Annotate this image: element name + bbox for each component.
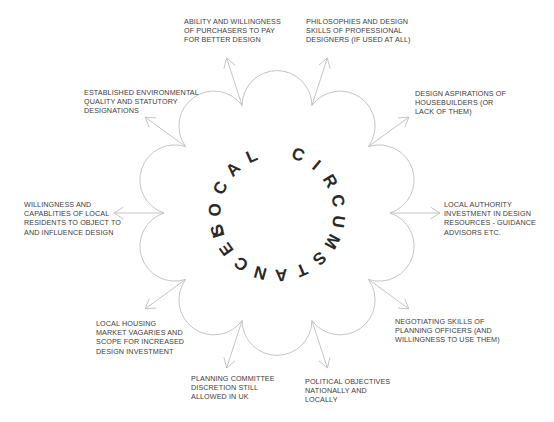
scallop-arc <box>140 145 186 213</box>
factor-label-line: AND INFLUENCE DESIGN <box>24 228 121 237</box>
factor-label-line: WILLINGNESS AND <box>24 200 121 209</box>
factor-label-line: PLANNING COMMITTEE <box>191 374 275 383</box>
center-title-letter: C <box>209 178 231 197</box>
arrow-icon <box>312 58 330 106</box>
scallop-arc <box>368 145 414 213</box>
factor-label-line: LOCAL AUTHORITY <box>444 200 536 209</box>
factor-label-committee: PLANNING COMMITTEEDISCRETION STILLALLOWE… <box>191 374 275 402</box>
center-title-letter: C <box>231 252 252 275</box>
factor-label-line: NATIONALLY AND <box>305 386 390 395</box>
factor-label-line: DESIGN ASPIRATIONS OF <box>415 89 506 98</box>
arrow-icon <box>390 207 440 219</box>
arrow-icon <box>312 320 330 368</box>
center-title-letter: R <box>319 171 342 191</box>
center-title-letter: M <box>320 231 343 252</box>
center-title-letter: O <box>205 203 225 217</box>
scallop-arc <box>140 213 186 281</box>
factor-label-line: POLITICAL OBJECTIVES <box>305 377 390 386</box>
factor-label-line: DESIGN INVESTMENT <box>96 347 184 356</box>
factor-label-line: SCOPE FOR INCREASED <box>96 337 184 346</box>
factor-label-line: DISCRETION STILL <box>191 383 275 392</box>
factor-label-line: LOCAL HOUSING <box>96 319 184 328</box>
factor-label-line: LACK OF THEM) <box>415 107 506 116</box>
center-title-letter: N <box>252 262 269 284</box>
factor-label-local-authority: LOCAL AUTHORITYINVESTMENT IN DESIGNRESOU… <box>444 200 536 237</box>
factor-label-line: RESOURCES - GUIDANCE <box>444 218 536 227</box>
scallop-arc <box>242 321 312 356</box>
scallop-arc <box>179 279 242 334</box>
factor-label-designers: PHILOSOPHIES AND DESIGNSKILLS OF PROFESS… <box>306 17 411 45</box>
factor-label-line: CAPABLITIES OF LOCAL <box>24 209 121 218</box>
factor-label-line: MARKET VAGARIES AND <box>96 328 184 337</box>
factor-label-line: WILLINGNESS TO USE THEM) <box>395 335 500 344</box>
scallop-arc <box>312 91 375 146</box>
factor-label-line: QUALITY AND STATUTORY <box>84 97 199 106</box>
factor-label-housebuilders: DESIGN ASPIRATIONS OFHOUSEBUILDERS (ORLA… <box>415 89 506 117</box>
factor-label-political: POLITICAL OBJECTIVESNATIONALLY ANDLOCALL… <box>305 377 390 405</box>
factor-label-line: ESTABLISHED ENVIRONMENTAL <box>84 88 199 97</box>
center-title-letter: T <box>293 259 311 281</box>
factor-label-purchasers: ABILITY AND WILLINGNESSOF PURCHASERS TO … <box>184 17 281 45</box>
factor-label-line: PHILOSOPHIES AND DESIGN <box>306 17 411 26</box>
factor-label-line: INVESTMENT IN DESIGN <box>444 209 536 218</box>
scallop-arc <box>242 71 312 106</box>
factor-label-negotiating: NEGOTIATING SKILLS OFPLANNING OFFICERS (… <box>395 317 500 345</box>
factor-label-line: PLANNING OFFICERS (AND <box>395 326 500 335</box>
factor-label-environmental: ESTABLISHED ENVIRONMENTALQUALITY AND STA… <box>84 88 199 116</box>
center-title-letter: A <box>222 158 244 180</box>
center-title-letter: U <box>328 214 349 229</box>
factor-label-line: HOUSEBUILDERS (OR <box>415 98 506 107</box>
center-title: LOCALCIRCUMSTANCES <box>205 144 348 285</box>
center-title-letter: C <box>289 144 307 166</box>
center-title-letter: L <box>243 146 260 168</box>
factor-label-line: LOCALLY <box>305 395 390 404</box>
factor-label-line: DESIGNERS (IF USED AT ALL) <box>306 35 411 44</box>
center-title-letter: S <box>309 247 330 269</box>
factor-label-line: SKILLS OF PROFESSIONAL <box>306 26 411 35</box>
factor-label-line: OF PURCHASERS TO PAY <box>184 26 281 35</box>
center-title-letter: I <box>309 156 325 174</box>
factor-label-line: FOR BETTER DESIGN <box>184 35 281 44</box>
center-title-letter: C <box>327 193 348 209</box>
center-title-letter: A <box>275 265 289 285</box>
scallop-arc <box>312 279 375 334</box>
arrow-icon <box>224 58 242 106</box>
factor-label-line: NEGOTIATING SKILLS OF <box>395 317 500 326</box>
factor-label-line: RESIDENTS TO OBJECT TO <box>24 218 121 227</box>
arrow-icon <box>224 320 242 368</box>
factor-label-line: DESIGNATIONS <box>84 106 199 115</box>
factor-label-line: ABILITY AND WILLINGNESS <box>184 17 281 26</box>
scallop-arc <box>368 213 414 281</box>
factor-label-line: ALLOWED IN UK <box>191 392 275 401</box>
factor-label-housing-market: LOCAL HOUSINGMARKET VAGARIES ANDSCOPE FO… <box>96 319 184 356</box>
arrow-icon <box>114 207 164 219</box>
factor-label-residents: WILLINGNESS ANDCAPABLITIES OF LOCALRESID… <box>24 200 121 237</box>
center-title-letter: E <box>215 239 237 259</box>
factor-label-line: ADVISORS Etc. <box>444 228 536 237</box>
